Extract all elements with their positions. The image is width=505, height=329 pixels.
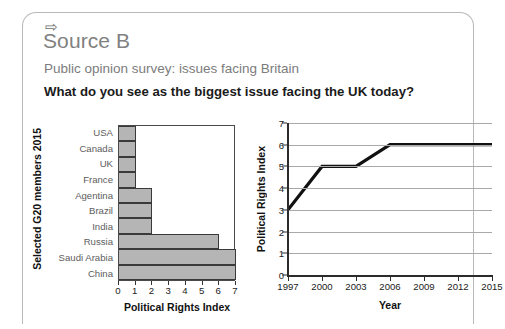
bar-chart-bar-row [119,218,234,233]
line-chart-x-ticklabels: 1997200020032006200920122015 [288,281,492,295]
bar-chart-bar [119,126,136,141]
line-chart-series-path [288,123,492,275]
bar-chart-x-ticklabel: 0 [115,285,120,296]
line-chart-y-axis-title-text: Political Rights Index [255,146,267,252]
source-subtitle: Public opinion survey: issues facing Bri… [44,61,299,76]
bar-chart-bar [119,172,136,187]
line-chart-gridline [288,145,492,146]
bar-chart-bar [119,234,219,249]
bar-chart-bar-row [119,234,234,249]
line-chart-x-ticklabel: 1997 [277,281,298,292]
bar-chart-x-ticklabel: 5 [199,285,204,296]
line-chart-gridline [288,210,492,211]
line-chart-y-axis-line [287,123,289,277]
bar-chart-bar [119,203,152,218]
line-chart-gridline [288,232,492,233]
bar-chart-category-label: USA [45,125,117,141]
line-chart-x-ticklabel: 2000 [311,281,332,292]
bar-chart-category-label: Agentina [45,187,117,203]
line-chart-x-ticklabel: 2003 [345,281,366,292]
bar-chart-x-ticklabels: 01234567 [118,285,235,299]
line-chart-gridline [288,253,492,254]
bar-chart-category-label: Canada [45,141,117,157]
bar-chart-bar [119,157,136,172]
bar-chart-category-labels: USACanadaUKFranceAgentinaBrazilIndiaRuss… [45,125,117,281]
line-chart-x-ticklabel: 2009 [413,281,434,292]
line-chart-gridline [288,188,492,189]
bar-chart-x-ticklabel: 3 [165,285,170,296]
bar-chart-bar-row [119,126,234,141]
line-chart-gridline [288,123,492,124]
bar-chart-category-label: Russia [45,234,117,250]
bar-chart-x-ticklabel: 7 [232,285,237,296]
bar-chart-category-label: Brazil [45,203,117,219]
bar-chart-bar-row [119,188,234,203]
bar-chart-plot-area [118,125,235,281]
bar-chart-category-label: Saudi Arabia [45,250,117,266]
line-chart-gridline [288,166,492,167]
bar-chart-category-label: China [45,265,117,281]
bar-chart-category-label: France [45,172,117,188]
bar-chart-bar-row [119,265,234,280]
source-card: ⇨ Source B Public opinion survey: issues… [22,12,474,324]
line-chart-x-ticklabel: 2006 [379,281,400,292]
bar-chart-bar-row [119,249,234,264]
bar-chart-y-axis-title: Selected G20 members 2015 [31,125,43,273]
bar-chart-bar [119,265,236,280]
line-chart-y-axis-title: Political Rights Index [255,123,267,275]
line-chart-plot-area [288,123,492,275]
bar-chart-category-label: UK [45,156,117,172]
bar-chart-x-ticklabel: 1 [132,285,137,296]
bar-chart-bar-row [119,141,234,156]
bar-chart-y-axis-title-text: Selected G20 members 2015 [31,128,43,270]
source-title: Source B [43,29,130,53]
line-chart-x-axis-title: Year [335,299,445,311]
line-chart-x-ticklabel: 2012 [447,281,468,292]
bar-chart-category-label: India [45,219,117,235]
bar-chart-bar [119,188,152,203]
bar-chart-x-ticklabel: 2 [149,285,154,296]
bar-chart-bar-row [119,157,234,172]
bar-chart-bar [119,218,152,233]
bar-chart-bar [119,249,236,264]
bar-chart-bar-row [119,203,234,218]
bar-chart-bar-row [119,172,234,187]
line-chart: Political Rights Index 01234567 19972000… [255,111,505,321]
bar-chart: Selected G20 members 2015 USACanadaUKFra… [27,111,259,321]
bar-chart-x-ticklabel: 6 [216,285,221,296]
bar-chart-x-ticklabel: 4 [182,285,187,296]
bar-chart-x-axis-title: Political Rights Index [99,301,255,313]
bar-chart-bars [119,126,234,280]
bar-chart-bar [119,141,136,156]
line-chart-x-ticklabel: 2015 [481,281,502,292]
survey-question: What do you see as the biggest issue fac… [44,84,414,99]
